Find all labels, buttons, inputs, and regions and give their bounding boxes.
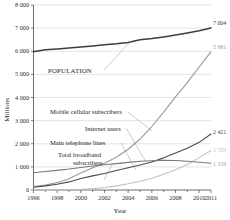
x-tick-label: 2000 <box>75 194 87 201</box>
series-label-internet: Internet users <box>85 125 121 132</box>
end-value-internet: 2 421 <box>213 129 226 135</box>
y-tick-label: 8 000 <box>15 1 29 8</box>
end-value-mobile: 5 981 <box>213 44 226 50</box>
y-tick-label: 5 000 <box>15 70 29 77</box>
series-label-broadband-line2: subscribers <box>73 159 103 166</box>
end-value-broadband: 1 709 <box>213 147 226 153</box>
y-axis-title: Millions <box>3 98 11 122</box>
y-tick-label: 2 000 <box>15 140 29 147</box>
x-tick-label: 1996 <box>27 194 39 201</box>
y-tick-label: 1 000 <box>15 163 29 170</box>
y-tick-label: 7 000 <box>15 24 29 31</box>
end-value-telephone: 1 159 <box>213 161 226 167</box>
chart-container: 01 0002 0003 0004 0005 0006 0007 0008 00… <box>0 0 230 220</box>
x-tick-label: 1998 <box>51 194 63 201</box>
x-tick-label: 2002 <box>98 194 110 201</box>
series-label-telephone: Main telephone lines <box>50 139 106 146</box>
series-label-broadband-line1: Total broadband <box>58 151 102 158</box>
y-tick-label: 4 000 <box>15 94 29 101</box>
y-tick-label: 3 000 <box>15 117 29 124</box>
x-tick-label: 2008 <box>169 194 181 201</box>
x-tick-label: 2010 <box>193 194 205 201</box>
x-tick-label: 2011 <box>205 194 217 201</box>
x-tick-label: 2006 <box>146 194 158 201</box>
series-label-mobile: Mobile cellular subscribers <box>50 108 122 115</box>
end-value-population: 7 004 <box>213 20 226 26</box>
y-tick-label: 0 <box>26 186 29 193</box>
x-tick-label: 2004 <box>122 194 134 201</box>
series-label-population: POPULATION <box>48 67 92 74</box>
y-tick-label: 6 000 <box>15 47 29 54</box>
x-axis-title: Year <box>114 207 128 215</box>
line-chart: 01 0002 0003 0004 0005 0006 0007 0008 00… <box>0 0 230 220</box>
